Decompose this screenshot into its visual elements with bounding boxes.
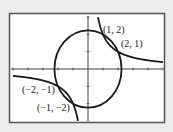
label-neg1-neg2: (−1, −2) (37, 102, 70, 114)
label-2-1: (2, 1) (121, 38, 143, 50)
label-neg2-neg1: (−2, −1) (22, 84, 55, 96)
graph: (1, 2) (2, 1) (−2, −1) (−1, −2) (0, 0, 173, 132)
label-1-2: (1, 2) (103, 24, 125, 36)
